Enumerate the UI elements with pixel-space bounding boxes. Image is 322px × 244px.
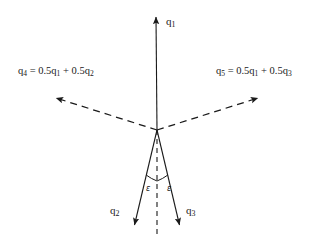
vector-diagram-canvas: q1 q2 q3 q4 = 0.5q1 + 0.5q2 q5 = 0.5q1 +… <box>0 0 322 244</box>
angle-arc-right <box>157 175 168 181</box>
diagram-vector-layer <box>0 0 322 244</box>
angle-label-epsilon-right: ε <box>167 185 171 193</box>
vector-label-q3: q3 <box>186 205 195 218</box>
vector-line-q1 <box>156 17 157 130</box>
vector-line-q3 <box>157 130 180 225</box>
vector-line-q4 <box>56 98 157 130</box>
vector-line-q5 <box>157 98 258 130</box>
vector-label-q2: q2 <box>110 205 119 218</box>
vector-label-q5-equation: q5 = 0.5q1 + 0.5q3 <box>216 66 292 78</box>
angle-arc-left <box>146 175 157 181</box>
angle-label-epsilon-left: ε <box>146 185 150 193</box>
vector-line-q2 <box>135 130 158 225</box>
vector-label-q1: q1 <box>166 16 175 29</box>
vector-label-q4-equation: q4 = 0.5q1 + 0.5q2 <box>18 66 94 78</box>
